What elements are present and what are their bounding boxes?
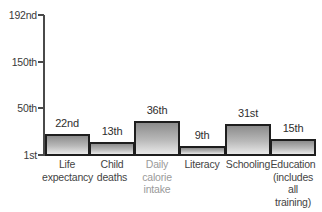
category-label-life-expectancy: Life expectancy	[42, 158, 92, 183]
bar-value-life-expectancy: 22nd	[44, 117, 90, 129]
bar-value-literacy: 9th	[179, 129, 225, 141]
category-label-education: Education (includes all training)	[268, 158, 318, 208]
bar-value-daily-calorie-intake: 36th	[134, 104, 180, 116]
bar-education	[270, 139, 316, 156]
bar-literacy	[179, 146, 226, 156]
bar-life-expectancy	[45, 134, 90, 156]
y-tick-mark	[38, 61, 44, 62]
y-tick-label: 150th	[12, 56, 37, 68]
y-tick-1st: 1st	[0, 148, 44, 162]
y-tick-192nd: 192nd	[0, 8, 44, 22]
bar-daily-calorie-intake	[134, 121, 180, 156]
y-tick-label: 1st	[24, 149, 37, 161]
rank-bar-chart: 192nd 150th 50th 1st 22nd Life expectanc…	[0, 0, 322, 212]
y-tick-50th: 50th	[0, 101, 44, 115]
y-tick-mark	[38, 154, 44, 155]
y-tick-mark	[38, 107, 44, 108]
y-tick-150th: 150th	[0, 55, 44, 69]
y-tick-mark	[38, 14, 44, 15]
category-label-schooling: Schooling	[223, 158, 273, 171]
bar-child-deaths	[89, 142, 135, 156]
y-tick-label: 50th	[17, 102, 37, 114]
bar-value-education: 15th	[270, 122, 316, 134]
bar-value-child-deaths: 13th	[89, 125, 135, 137]
category-label-literacy: Literacy	[177, 158, 227, 171]
bar-schooling	[225, 124, 271, 156]
y-tick-label: 192nd	[9, 9, 37, 21]
category-label-child-deaths: Child deaths	[87, 158, 137, 183]
bar-value-schooling: 31st	[225, 107, 271, 119]
category-label-daily-calorie-intake: Daily calorie intake	[132, 158, 182, 196]
